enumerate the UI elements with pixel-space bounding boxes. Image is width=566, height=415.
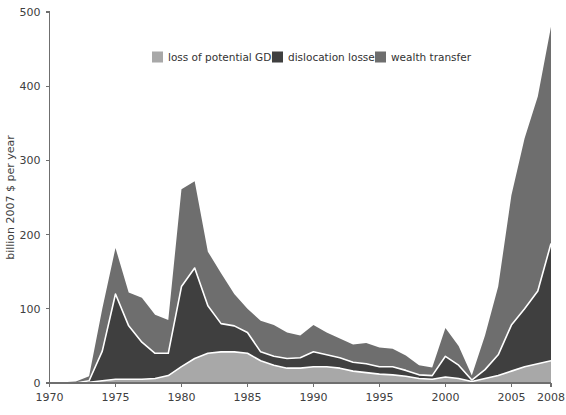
legend-label: loss of potential GDP [168, 51, 278, 63]
y-tick-label: 200 [20, 229, 41, 242]
y-tick-label: 400 [20, 80, 41, 93]
y-axis-title: billion 2007 $ per year [4, 135, 17, 260]
legend-swatch [152, 52, 163, 63]
x-tick-label: 2008 [537, 391, 565, 404]
x-tick-label: 1990 [299, 391, 327, 404]
chart-legend: loss of potential GDPdislocation lossesw… [152, 51, 472, 63]
legend-swatch [375, 52, 386, 63]
x-tick-label: 1985 [233, 391, 261, 404]
plot-areas [50, 27, 552, 383]
x-tick-label: 1980 [167, 391, 195, 404]
legend-label: dislocation losses [288, 51, 380, 63]
x-tick-label: 2005 [497, 391, 525, 404]
y-tick-label: 100 [20, 303, 41, 316]
x-tick-label: 1995 [365, 391, 393, 404]
x-axis-ticks: 197019751980198519901995200020052008 [36, 383, 566, 404]
stacked-area-chart: 0100200300400500 19701975198019851990199… [0, 0, 566, 415]
legend-swatch [272, 52, 283, 63]
chart-container: 0100200300400500 19701975198019851990199… [0, 0, 566, 415]
y-axis-ticks: 0100200300400500 [20, 6, 50, 390]
y-tick-label: 500 [20, 6, 41, 19]
y-tick-label: 300 [20, 154, 41, 167]
x-tick-label: 1970 [36, 391, 64, 404]
y-tick-label: 0 [34, 377, 41, 390]
legend-label: wealth transfer [391, 51, 472, 63]
x-tick-label: 1975 [101, 391, 129, 404]
x-tick-label: 2000 [431, 391, 459, 404]
